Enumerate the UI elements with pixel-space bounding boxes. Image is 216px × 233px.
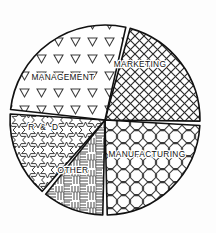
- slice-label-marketing: MARKETING: [114, 59, 166, 69]
- slice-label-management: MANAGEMENT: [32, 72, 95, 82]
- pie-slices: [10, 25, 200, 215]
- pie-chart-container: MARKETINGMANUFACTURINGOTHERR & DMANAGEME…: [0, 0, 216, 233]
- slice-label-r-d: R & D: [28, 122, 60, 132]
- slice-label-other: OTHER: [58, 165, 89, 175]
- pie-slice-manufacturing[interactable]: [105, 120, 200, 215]
- pie-chart: MARKETINGMANUFACTURINGOTHERR & DMANAGEME…: [0, 0, 216, 233]
- slice-label-manufacturing: MANUFACTURING: [109, 149, 186, 159]
